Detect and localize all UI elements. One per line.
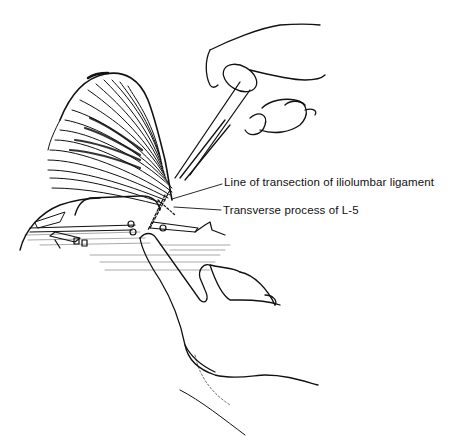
label-transverse-process-l5: Transverse process of L-5	[223, 204, 359, 216]
upper-hand-forceps	[175, 24, 325, 180]
iliac-wing	[48, 73, 172, 205]
leader-lines	[172, 184, 222, 210]
retractors	[30, 221, 225, 248]
label-iliolumbar-transection: Line of transection of iliolumbar ligame…	[224, 176, 434, 188]
lower-hand	[140, 234, 318, 436]
pelvic-rim	[20, 196, 230, 270]
surgical-illustration	[0, 0, 460, 437]
